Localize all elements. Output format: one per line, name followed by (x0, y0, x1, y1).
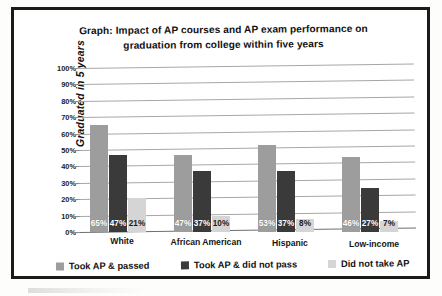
bar-value-label: 10% (213, 219, 229, 228)
bar: 21% (128, 198, 146, 232)
bar: 47% (109, 155, 127, 232)
bar-value-label: 65% (91, 219, 107, 228)
y-axis-tick-label: 20% (38, 195, 76, 204)
chart-title-line-1: Graph: Impact of AP courses and AP exam … (79, 23, 368, 36)
legend-color-swatch (328, 260, 336, 268)
bar-value-label: 46% (343, 219, 359, 228)
x-axis-category-label: African American (164, 237, 248, 247)
y-axis-tick-label: 50% (38, 146, 76, 155)
chart-legend: Took AP & passedTook AP & did not passDi… (38, 258, 413, 279)
x-axis-category-label: Hispanic (248, 238, 332, 248)
y-axis-tick-label: 90% (38, 80, 76, 89)
legend-label: Did not take AP (341, 258, 409, 269)
bar: 37% (193, 171, 211, 232)
bar: 37% (277, 171, 295, 232)
bar-value-label: 47% (110, 219, 126, 228)
bar: 53% (258, 145, 276, 232)
y-axis-tick-label: 80% (38, 96, 76, 105)
y-axis-tick-label: 30% (38, 178, 76, 187)
y-axis-tick-label: 100% (38, 64, 76, 73)
bar-group: 65%47%21% (90, 68, 146, 232)
page-edge-artifact (28, 288, 148, 293)
legend-color-swatch (56, 262, 64, 270)
bar-value-label: 21% (129, 219, 145, 228)
legend-label: Took AP & did not pass (194, 259, 297, 270)
legend-item: Took AP & passed (56, 261, 150, 272)
bar-value-label: 37% (194, 219, 210, 228)
x-axis-category-label: White (80, 236, 164, 246)
plot-area: 65%47%21%47%37%10%53%37%8%46%27%7% (80, 68, 416, 232)
bar-value-label: 47% (175, 219, 191, 228)
legend-item: Did not take AP (328, 258, 409, 269)
legend-color-swatch (181, 261, 189, 269)
bar: 27% (361, 188, 379, 232)
legend-label: Took AP & passed (69, 261, 150, 272)
bar-group: 47%37%10% (174, 68, 230, 232)
x-axis-category-labels: WhiteAfrican AmericanHispanicLow-income (80, 236, 416, 254)
legend-item: Took AP & did not pass (181, 259, 297, 270)
bar: 7% (380, 221, 398, 232)
bar-value-label: 53% (259, 219, 275, 228)
bar: 46% (342, 157, 360, 232)
chart-frame: Graph: Impact of AP courses and AP exam … (11, 7, 430, 279)
bar: 65% (90, 125, 108, 232)
bar-value-label: 37% (278, 219, 294, 228)
bar-series-container: 65%47%21%47%37%10%53%37%8%46%27%7% (80, 68, 416, 232)
x-axis-category-label: Low-income (332, 239, 416, 249)
bar-value-label: 7% (383, 219, 395, 228)
bar-group: 46%27%7% (342, 68, 398, 232)
y-axis-tick-label: 0% (38, 228, 76, 237)
y-axis-tick-label: 60% (38, 129, 76, 138)
bar: 10% (212, 216, 230, 232)
bar-value-label: 27% (362, 219, 378, 228)
y-axis-tick-labels: 100%90%80%70%60%50%40%30%20%10%0% (36, 60, 76, 240)
bar-group: 53%37%8% (258, 68, 314, 232)
y-axis-tick-label: 40% (38, 162, 76, 171)
y-axis-tick-label: 70% (38, 113, 76, 122)
y-axis-tick-label: 10% (38, 211, 76, 220)
scanned-chart-page: Graph: Impact of AP courses and AP exam … (0, 0, 442, 296)
bar: 8% (296, 219, 314, 232)
bar-value-label: 8% (299, 219, 311, 228)
bar: 47% (174, 155, 192, 232)
